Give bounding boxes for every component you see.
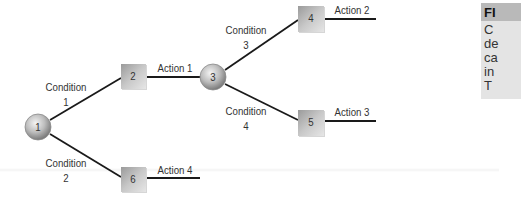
condition-3-text: Condition [223, 23, 269, 38]
caption-line: de [481, 37, 521, 51]
condition-4-label: Condition 4 [223, 104, 269, 134]
node-1-label: 1 [29, 120, 47, 135]
action-4-label: Action 4 [153, 163, 197, 178]
node-3-label: 3 [204, 70, 222, 85]
condition-1-number: 1 [43, 95, 89, 110]
node-5-label: 5 [302, 115, 320, 130]
node-6-label: 6 [124, 172, 142, 187]
condition-1-label: Condition 1 [43, 80, 89, 110]
node-4-label: 4 [302, 11, 320, 26]
condition-3-label: Condition 3 [223, 23, 269, 53]
condition-4-number: 4 [223, 119, 269, 134]
edges [50, 19, 376, 178]
condition-2-text: Condition [43, 156, 89, 171]
condition-4-text: Condition [223, 104, 269, 119]
condition-2-label: Condition 2 [43, 156, 89, 186]
caption-line: ca [481, 51, 521, 65]
caption-line: in [481, 65, 521, 79]
action-3-label: Action 3 [330, 105, 374, 120]
node-2-label: 2 [124, 69, 142, 84]
action-2-label: Action 2 [330, 3, 374, 18]
condition-2-number: 2 [43, 171, 89, 186]
caption-body: C de ca in T [481, 21, 521, 93]
condition-3-number: 3 [223, 38, 269, 53]
action-1-label: Action 1 [153, 61, 197, 76]
condition-1-text: Condition [43, 80, 89, 95]
caption-header: FI [481, 3, 521, 21]
figure-caption-box: FI C de ca in T [481, 3, 521, 99]
caption-line: C [481, 23, 521, 37]
caption-line: T [481, 79, 521, 93]
